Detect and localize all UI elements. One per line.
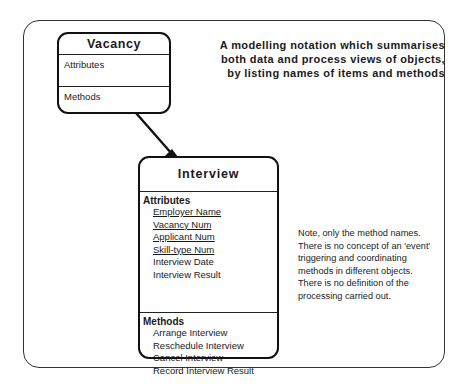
interview-attributes-label: Attributes	[140, 192, 277, 206]
note-line: methods in different objects.	[298, 265, 446, 278]
heading-line: A modelling notation which summarises	[200, 38, 445, 52]
method: Reschedule Interview	[153, 340, 277, 353]
attribute-key: Skill-type Num	[153, 244, 277, 257]
attribute-key: Vacancy Num	[153, 219, 277, 232]
note-line: processing carried out.	[298, 290, 446, 303]
note-line: There is no concept of an 'event'	[298, 240, 446, 253]
method: Cancel Interview	[153, 352, 277, 365]
vacancy-methods-label: Methods	[59, 87, 169, 102]
heading-line: by listing names of items and methods	[200, 66, 445, 80]
interview-attributes-section: Attributes Employer Name Vacancy Num App…	[140, 192, 277, 313]
attribute: Interview Date	[153, 256, 277, 269]
note-line: triggering and coordinating	[298, 252, 446, 265]
vacancy-object-box: Vacancy Attributes Methods	[57, 32, 171, 114]
attribute-key: Applicant Num	[153, 231, 277, 244]
vacancy-attributes-label: Attributes	[59, 55, 169, 87]
notation-heading: A modelling notation which summarises bo…	[200, 38, 445, 80]
side-note: Note, only the method names. There is no…	[298, 227, 446, 303]
interview-title: Interview	[140, 158, 277, 192]
method: Arrange Interview	[153, 327, 277, 340]
interview-object-box: Interview Attributes Employer Name Vacan…	[138, 156, 279, 359]
note-line: There is no definition of the	[298, 277, 446, 290]
heading-line: both data and process views of objects,	[200, 52, 445, 66]
method: Record Interview Result	[153, 365, 277, 378]
interview-methods-section: Methods Arrange Interview Reschedule Int…	[140, 313, 277, 377]
vacancy-title: Vacancy	[59, 34, 169, 55]
attribute: Interview Result	[153, 269, 277, 282]
note-line: Note, only the method names.	[298, 227, 446, 240]
attribute-key: Employer Name	[153, 206, 277, 219]
interview-methods-label: Methods	[140, 313, 277, 327]
